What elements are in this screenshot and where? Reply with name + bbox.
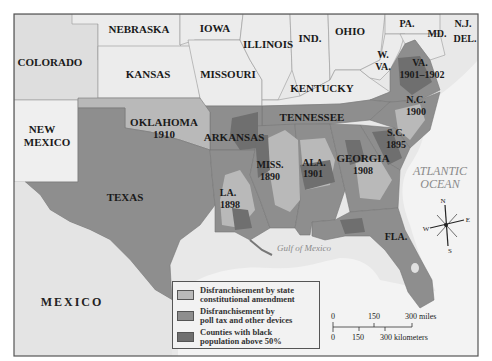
label-alabama-year: 1901 — [303, 168, 323, 179]
scale-km-300: 300 kilometers — [380, 333, 428, 342]
label-virginia-year: 1901–1902 — [400, 69, 445, 80]
label-louisiana-year: 1898 — [220, 199, 240, 210]
label-gulf-of-mexico: Gulf of Mexico — [277, 243, 331, 253]
compass-n: N — [440, 197, 445, 205]
scale-km-150: 150 — [352, 333, 364, 342]
label-pennsylvania: PA. — [399, 18, 415, 29]
swatch-constitutional — [177, 290, 194, 300]
label-oklahoma: OKLAHOMA — [130, 116, 198, 128]
label-tennessee: TENNESSEE — [280, 111, 345, 123]
scale-miles-0: 0 — [331, 312, 335, 321]
label-arkansas: ARKANSAS — [204, 131, 265, 143]
map-legend: Disfranchisement by state constitutional… — [172, 281, 320, 349]
scale-km-0: 0 — [331, 333, 335, 342]
legend-item-poll-tax: Disfranchisement by poll tax and other d… — [177, 305, 315, 326]
label-maryland: MD. — [427, 28, 447, 39]
label-illinois: ILLINOIS — [243, 38, 293, 50]
compass-e: E — [466, 216, 470, 224]
label-mississippi-year: 1890 — [260, 171, 280, 182]
label-iowa: IOWA — [200, 22, 231, 34]
label-kansas: KANSAS — [126, 68, 171, 80]
compass-w: W — [423, 225, 430, 233]
legend-item-black-majority: Counties with black population above 50% — [177, 326, 315, 347]
legend-label: population above 50% — [200, 337, 282, 346]
label-oklahoma-year: 1910 — [153, 128, 176, 140]
label-kentucky: KENTUCKY — [290, 82, 354, 94]
label-new-jersey: N.J. — [454, 18, 472, 29]
label-west-virginia-2: VA. — [375, 61, 391, 72]
label-mississippi: MISS. — [257, 159, 284, 170]
label-georgia: GEORGIA — [336, 152, 389, 164]
scale-miles-300: 300 miles — [405, 312, 436, 321]
compass-s: S — [448, 247, 452, 255]
label-louisiana: LA. — [220, 187, 237, 198]
label-south-carolina-year: 1895 — [386, 139, 406, 150]
label-delaware: DEL. — [453, 33, 477, 44]
swatch-poll-tax — [177, 311, 194, 321]
label-atlantic-2: OCEAN — [420, 177, 460, 191]
label-nebraska: NEBRASKA — [108, 23, 169, 35]
label-florida: FLA. — [385, 231, 408, 242]
label-atlantic-1: ATLANTIC — [412, 164, 468, 178]
legend-label: poll tax and other devices — [200, 316, 292, 325]
label-new-mexico-1: NEW — [29, 123, 55, 135]
label-georgia-year: 1908 — [353, 165, 373, 176]
label-texas: TEXAS — [107, 191, 144, 203]
label-north-carolina: N.C. — [406, 94, 426, 105]
label-north-carolina-year: 1900 — [406, 106, 426, 117]
label-south-carolina: S.C. — [387, 127, 405, 138]
label-colorado: COLORADO — [18, 56, 83, 68]
label-indiana: IND. — [299, 32, 322, 44]
label-ohio: OHIO — [335, 25, 365, 37]
lake-okeechobee — [411, 263, 419, 273]
legend-label: constitutional amendment — [200, 295, 295, 304]
scale-miles-150: 150 — [368, 312, 380, 321]
legend-item-constitutional: Disfranchisement by state constitutional… — [177, 284, 315, 305]
label-mexico: MEXICO — [41, 295, 104, 309]
label-virginia: VA. — [412, 57, 428, 68]
label-missouri: MISSOURI — [200, 68, 256, 80]
swatch-black-majority — [177, 332, 194, 342]
label-west-virginia-1: W. — [377, 49, 389, 60]
label-alabama: ALA. — [302, 157, 326, 168]
label-new-mexico-2: MEXICO — [24, 136, 71, 148]
